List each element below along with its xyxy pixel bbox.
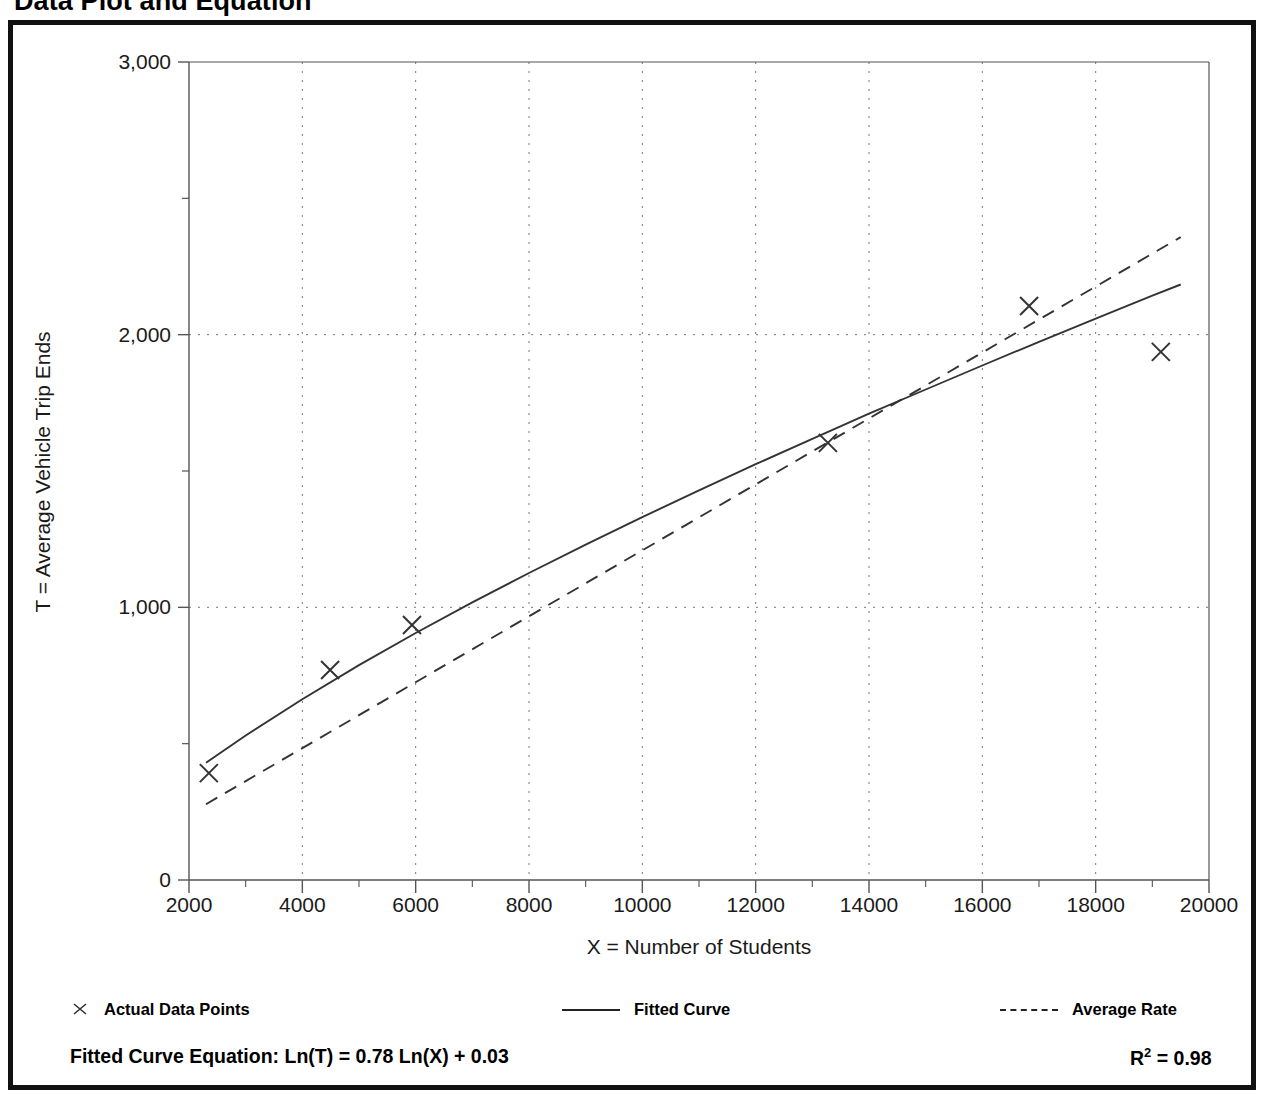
legend-item-actual-data-points: Actual Data Points	[70, 995, 250, 1023]
x-tick-label: 12000	[726, 893, 784, 917]
r-squared-value: R2 = 0.98	[1130, 1045, 1212, 1070]
y-tick-label: 1,000	[79, 595, 171, 619]
figure-frame	[8, 20, 1256, 1090]
x-tick-label: 14000	[840, 893, 898, 917]
dashed-line-icon	[1000, 1001, 1058, 1017]
legend-label-average-rate: Average Rate	[1072, 1000, 1177, 1019]
x-tick-label: 18000	[1066, 893, 1124, 917]
x-marker-icon	[70, 1001, 90, 1017]
x-tick-label: 6000	[392, 893, 439, 917]
y-tick-label: 0	[79, 868, 171, 892]
solid-line-icon	[562, 1001, 620, 1017]
x-tick-label: 16000	[953, 893, 1011, 917]
y-tick-label: 3,000	[79, 50, 171, 74]
x-tick-label: 10000	[613, 893, 671, 917]
x-tick-label: 4000	[279, 893, 326, 917]
fitted-curve-equation: Fitted Curve Equation: Ln(T) = 0.78 Ln(X…	[70, 1045, 509, 1068]
x-tick-label: 20000	[1180, 893, 1238, 917]
x-axis-title: X = Number of Students	[189, 935, 1209, 959]
y-tick-label: 2,000	[79, 323, 171, 347]
legend-label-actual-data-points: Actual Data Points	[104, 1000, 250, 1019]
y-axis-title: T = Average Vehicle Trip Ends	[31, 262, 55, 682]
r-squared-number: = 0.98	[1151, 1047, 1211, 1069]
chart-legend: Actual Data Points Fitted Curve Average …	[70, 995, 1230, 1023]
legend-item-average-rate: Average Rate	[1000, 995, 1177, 1023]
x-tick-label: 2000	[166, 893, 213, 917]
legend-item-fitted-curve: Fitted Curve	[562, 995, 730, 1023]
legend-label-fitted-curve: Fitted Curve	[634, 1000, 730, 1019]
r-squared-prefix: R	[1130, 1047, 1144, 1069]
page-title: Data Plot and Equation	[14, 0, 312, 17]
x-tick-label: 8000	[506, 893, 553, 917]
equation-row: Fitted Curve Equation: Ln(T) = 0.78 Ln(X…	[70, 1045, 1230, 1077]
